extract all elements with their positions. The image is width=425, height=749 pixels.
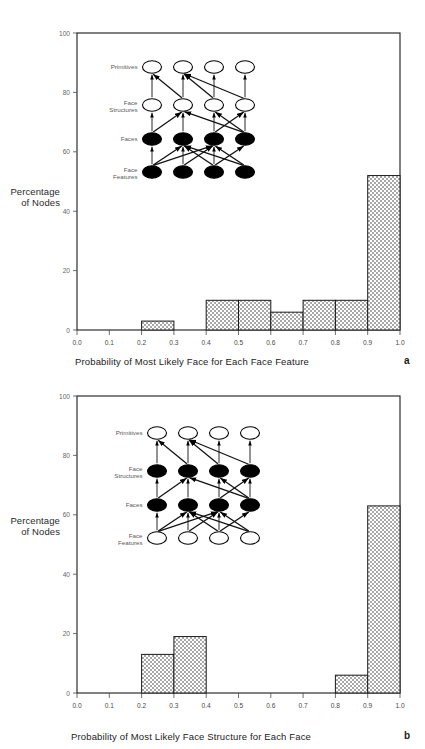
y-tick-label: 0 <box>66 690 70 697</box>
network-row-label: Face <box>124 166 138 173</box>
x-tick-label: 1.0 <box>395 339 404 346</box>
network-row-label: Structures <box>114 472 142 479</box>
panel-a-y-axis-title: Percentage of Nodes <box>0 186 60 208</box>
network-row-label: Faces <box>126 501 143 508</box>
x-tick-label: 0.1 <box>105 702 114 709</box>
y-tick-label: 100 <box>59 30 70 37</box>
network-row-label: Features <box>118 539 142 546</box>
panel-a-y-axis: 100 80 60 40 20 0 <box>59 30 77 334</box>
network-node-open <box>205 61 224 73</box>
network-node-open <box>241 532 260 544</box>
x-tick-label: 0.0 <box>72 702 81 709</box>
histogram-bar <box>303 300 335 330</box>
x-tick-label: 0.3 <box>169 339 178 346</box>
y-tick-label: 20 <box>63 267 71 274</box>
network-edge <box>153 74 182 98</box>
network-edge <box>153 146 182 165</box>
figure-panel-a: 100 80 60 40 20 0 0.0 0.1 <box>0 0 425 374</box>
histogram-bar <box>142 654 174 693</box>
network-node-filled <box>210 465 229 477</box>
y-axis-title-line2: of Nodes <box>0 197 60 208</box>
y-tick-label: 40 <box>63 571 71 578</box>
x-tick-group <box>77 693 400 698</box>
network-node-filled <box>143 166 162 178</box>
panel-b-letter: b <box>404 730 410 741</box>
network-node-filled <box>148 499 167 511</box>
x-tick-label: 0.4 <box>202 339 211 346</box>
network-edge <box>184 74 213 98</box>
histogram-bar <box>271 312 303 330</box>
y-tick-label: 20 <box>63 630 71 637</box>
network-node-filled <box>148 465 167 477</box>
network-node-open <box>210 532 229 544</box>
network-node-filled <box>143 133 162 145</box>
network-node-filled <box>241 499 260 511</box>
histogram-bar <box>206 300 238 330</box>
y-axis-title-line1: Percentage <box>0 515 60 526</box>
network-node-filled <box>174 166 193 178</box>
panel-b-x-axis: 0.0 0.1 0.2 0.3 0.4 0.5 0.6 0.7 0.8 0.9 … <box>72 693 404 709</box>
network-node-open <box>236 99 255 111</box>
panel-b-network-diagram: PrimitivesFaceStructuresFacesFaceFeature… <box>114 427 259 546</box>
figure-panel-b: 100 80 60 40 20 0 0.0 0.1 0. <box>0 375 425 749</box>
network-node-open <box>174 99 193 111</box>
histogram-bar <box>368 176 400 330</box>
y-tick-label: 0 <box>66 327 70 334</box>
network-row-label: Faces <box>121 135 138 142</box>
network-node-filled <box>236 166 255 178</box>
panel-a-network-diagram: PrimitivesFaceStructuresFacesFaceFeature… <box>109 61 254 180</box>
panel-b-x-axis-title: Probability of Most Likely Face Structur… <box>71 731 311 742</box>
network-row-label: Structures <box>109 106 137 113</box>
panel-a-axes-frame <box>77 33 400 330</box>
y-axis-title-line1: Percentage <box>0 186 60 197</box>
network-node-filled <box>236 133 255 145</box>
network-row-label: Primitives <box>116 429 143 436</box>
network-node-filled <box>205 133 224 145</box>
y-tick-label: 40 <box>63 208 71 215</box>
y-tick-label: 60 <box>63 511 71 518</box>
histogram-bar <box>368 506 400 693</box>
histogram-bar <box>239 300 271 330</box>
x-tick-label: 0.6 <box>266 339 275 346</box>
y-tick-label: 80 <box>63 452 71 459</box>
network-edge <box>189 440 218 464</box>
network-node-filled <box>179 465 198 477</box>
network-row-label: Primitives <box>111 63 138 70</box>
x-tick-label: 0.4 <box>202 702 211 709</box>
network-node-open <box>143 99 162 111</box>
panel-b-y-axis: 100 80 60 40 20 0 <box>59 393 77 697</box>
network-node-open <box>179 532 198 544</box>
x-tick-label: 0.7 <box>299 702 308 709</box>
network-node-open <box>143 61 162 73</box>
network-node-open <box>205 99 224 111</box>
network-node-open <box>174 61 193 73</box>
x-tick-label: 0.2 <box>137 702 146 709</box>
network-row-label: Face <box>124 99 138 106</box>
histogram-bar <box>174 637 206 693</box>
x-tick-label: 0.9 <box>363 702 372 709</box>
x-tick-label: 1.0 <box>395 702 404 709</box>
y-axis-title-line2: of Nodes <box>0 526 60 537</box>
y-tick-label: 100 <box>59 393 70 400</box>
network-node-open <box>148 427 167 439</box>
x-tick-group <box>77 330 400 335</box>
network-node-filled <box>241 465 260 477</box>
x-tick-label: 0.5 <box>234 339 243 346</box>
x-tick-label: 0.8 <box>331 339 340 346</box>
x-tick-label: 0.7 <box>299 339 308 346</box>
panel-a-x-axis: 0.0 0.1 0.2 0.3 0.4 0.5 0.6 0.7 0.8 0.9 … <box>72 330 404 346</box>
histogram-bar <box>335 675 367 693</box>
network-node-open <box>236 61 255 73</box>
network-node-open <box>241 427 260 439</box>
x-tick-label: 0.1 <box>105 339 114 346</box>
x-tick-label: 0.5 <box>234 702 243 709</box>
network-edge <box>158 440 187 464</box>
x-tick-label: 0.0 <box>72 339 81 346</box>
network-node-open <box>179 427 198 439</box>
network-node-filled <box>210 499 229 511</box>
histogram-bar <box>335 300 367 330</box>
network-node-filled <box>205 166 224 178</box>
x-tick-label: 0.8 <box>331 702 340 709</box>
network-row-label: Face <box>129 532 143 539</box>
x-tick-label: 0.3 <box>169 702 178 709</box>
